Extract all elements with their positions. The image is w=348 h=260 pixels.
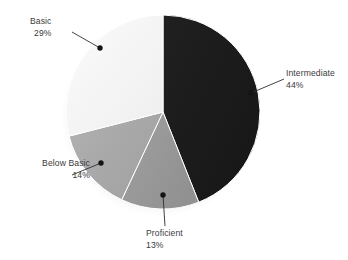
marker-dot-proficient: [160, 192, 165, 197]
marker-dot-intermediate: [248, 90, 253, 95]
pie-label-basic-percent: 29%: [30, 28, 52, 40]
pie-label-proficient[interactable]: Proficient 13%: [146, 228, 183, 251]
pie-label-below-basic-text: Below Basic: [8, 158, 90, 170]
pie-label-intermediate[interactable]: Intermediate 44%: [286, 68, 335, 91]
pie-label-basic[interactable]: Basic 29%: [30, 16, 52, 39]
pie-label-intermediate-percent: 44%: [286, 80, 335, 92]
pie-label-below-basic-percent: 14%: [8, 170, 90, 182]
pie-chart-figure: Basic 29% Intermediate 44% Below Basic 1…: [0, 0, 348, 260]
marker-dot-basic: [97, 45, 102, 50]
pie-label-proficient-percent: 13%: [146, 240, 183, 252]
marker-dot-below-basic: [98, 160, 103, 165]
pie-label-proficient-text: Proficient: [146, 228, 183, 240]
pie-label-basic-text: Basic: [30, 16, 52, 28]
pie-label-intermediate-text: Intermediate: [286, 68, 335, 80]
pie-chart-canvas: [0, 0, 348, 260]
pie-label-below-basic[interactable]: Below Basic 14%: [8, 158, 90, 181]
leader-line-basic: [72, 32, 100, 48]
